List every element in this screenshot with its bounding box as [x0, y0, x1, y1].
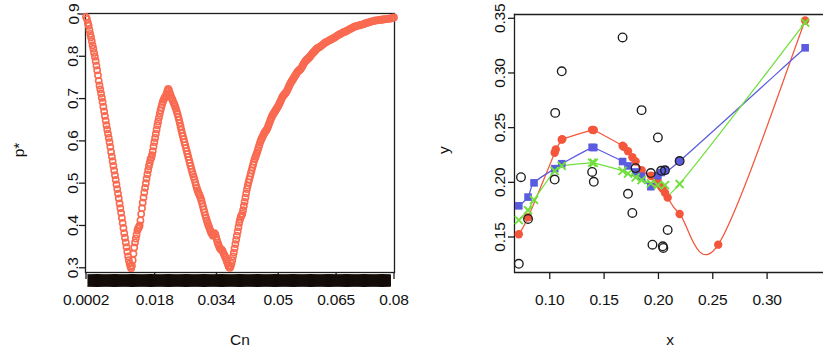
- left-y-axis-title: p*: [10, 143, 27, 158]
- left-x-tick-label: 0.065: [317, 291, 355, 308]
- marker-red-circle: [552, 145, 560, 153]
- left-y-tick-label: 0.8: [65, 46, 82, 67]
- left-y-tick-label: 0.6: [65, 130, 82, 151]
- right-x-tick-label: 0.10: [535, 291, 565, 308]
- right-panel: 0.150.200.250.300.35 0.100.150.200.250.3…: [420, 0, 823, 356]
- left-y-tick-label: 0.3: [65, 257, 82, 278]
- right-y-tick-label: 0.30: [492, 58, 509, 88]
- left-panel-svg: 0.30.40.50.60.70.80.9 0.00020.0180.0340.…: [0, 0, 420, 356]
- right-x-tick-label: 0.30: [752, 291, 782, 308]
- marker-blue-square: [801, 44, 809, 52]
- right-y-tick-label: 0.25: [492, 113, 509, 142]
- marker-red-circle: [590, 126, 598, 134]
- right-panel-svg: 0.150.200.250.300.35 0.100.150.200.250.3…: [420, 0, 823, 356]
- right-y-tick-label: 0.15: [492, 222, 509, 251]
- right-x-tick-label: 0.25: [698, 291, 727, 308]
- marker-blue-square: [590, 144, 598, 152]
- left-y-tick-label: 0.4: [65, 214, 82, 236]
- left-x-tick-label: 0.08: [379, 291, 408, 308]
- left-x-tick-label: 0.034: [198, 291, 236, 308]
- marker-blue-square: [530, 179, 538, 187]
- right-y-tick-label: 0.35: [492, 4, 509, 33]
- left-x-axis-title: Cn: [230, 331, 250, 348]
- left-y-tick-label: 0.5: [65, 173, 82, 194]
- marker-red-circle: [515, 230, 523, 238]
- right-y-axis-title: y: [435, 146, 452, 154]
- left-panel: 0.30.40.50.60.70.80.9 0.00020.0180.0340.…: [0, 0, 420, 356]
- marker-red-circle: [558, 135, 566, 143]
- right-x-axis-title: x: [666, 331, 674, 348]
- right-x-tick-label: 0.15: [589, 291, 618, 308]
- left-x-tick-label: 0.05: [264, 291, 293, 308]
- marker-blue-square: [515, 202, 523, 210]
- right-y-tick-label: 0.20: [492, 167, 509, 197]
- right-x-tick-label: 0.20: [644, 291, 674, 308]
- figure-container: 0.30.40.50.60.70.80.9 0.00020.0180.0340.…: [0, 0, 823, 356]
- left-x-tick-label: 0.018: [136, 291, 174, 308]
- left-y-tick-label: 0.7: [65, 88, 82, 109]
- left-x-tick-label: 0.0002: [63, 291, 109, 308]
- marker-red-circle: [675, 210, 683, 218]
- rug-ticks: [88, 274, 390, 287]
- marker-red-circle: [714, 240, 722, 248]
- marker-red-circle: [663, 193, 671, 201]
- left-y-tick-label: 0.9: [65, 4, 82, 25]
